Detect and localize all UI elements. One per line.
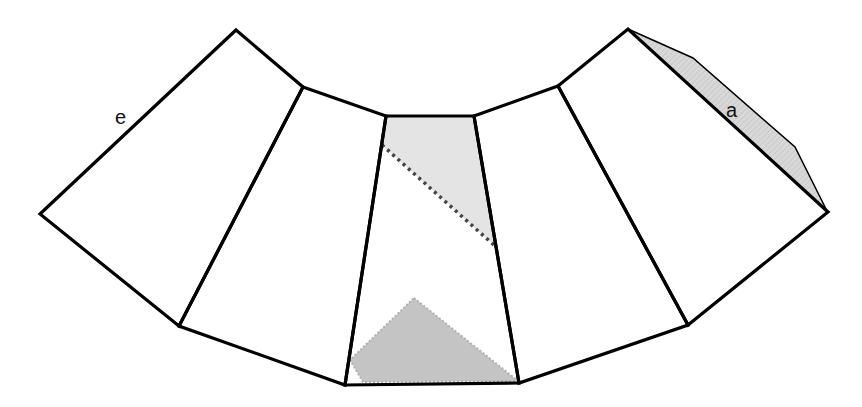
edge-label-e: e [115,106,126,128]
frustum-net-diagram: e a [0,0,862,407]
edge-label-a: a [726,99,738,121]
face-1 [40,30,303,326]
center-face-shaded-triangle [350,298,518,382]
face-2 [179,87,386,385]
